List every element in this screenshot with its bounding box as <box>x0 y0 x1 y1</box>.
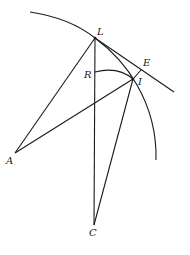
point-I <box>132 78 135 81</box>
segment-LC <box>94 38 95 225</box>
segment-IC <box>94 79 133 225</box>
inner-arc <box>95 70 133 79</box>
label-A: A <box>5 155 13 166</box>
segment-AI <box>15 79 133 153</box>
tangent-line <box>95 38 174 92</box>
label-R: R <box>83 69 92 80</box>
label-E: E <box>142 57 151 68</box>
label-C: C <box>89 227 97 238</box>
point-L <box>94 37 97 40</box>
label-L: L <box>96 26 104 37</box>
geometry-diagram: L E R I A C <box>0 0 190 255</box>
segment-LA <box>15 38 95 153</box>
label-I: I <box>137 76 143 87</box>
